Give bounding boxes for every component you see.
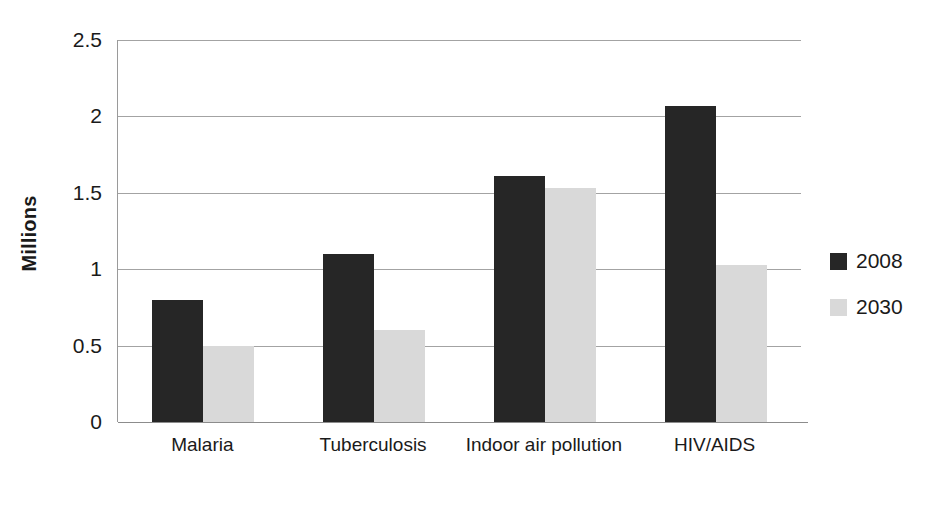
gridline — [118, 422, 808, 423]
bar-2030-malaria — [203, 346, 254, 422]
y-axis-tick-labels: 00.511.522.5 — [46, 0, 102, 522]
y-axis-tick-label: 1.5 — [46, 181, 102, 205]
bar-2030-indoor-air-pollution — [545, 188, 596, 422]
bar-2030-tuberculosis — [374, 330, 425, 422]
y-axis-tick-label: 1 — [46, 257, 102, 281]
bar-chart: Millions 00.511.522.5 MalariaTuberculosi… — [0, 0, 949, 522]
x-axis-label-hiv-aids: HIV/AIDS — [629, 432, 800, 457]
legend-label: 2008 — [856, 249, 903, 273]
y-axis-title: Millions — [18, 179, 41, 289]
y-axis-tick-label: 2 — [46, 104, 102, 128]
legend-item-2008[interactable]: 2008 — [830, 238, 940, 284]
x-axis-label-malaria: Malaria — [117, 432, 288, 457]
y-axis-tick-label: 2.5 — [46, 28, 102, 52]
bar-2008-hiv-aids — [665, 106, 716, 422]
x-axis-label-tuberculosis: Tuberculosis — [288, 432, 459, 457]
x-axis-label-indoor-air-pollution: Indoor air pollution — [459, 432, 630, 457]
bar-2030-hiv-aids — [716, 265, 767, 422]
legend-swatch-icon — [830, 253, 847, 270]
bar-2008-malaria — [152, 300, 203, 422]
y-axis-tick-label: 0.5 — [46, 334, 102, 358]
legend: 20082030 — [830, 238, 940, 330]
bar-2008-indoor-air-pollution — [494, 176, 545, 422]
legend-label: 2030 — [856, 295, 903, 319]
bar-2008-tuberculosis — [323, 254, 374, 422]
y-axis-tick-label: 0 — [46, 410, 102, 434]
plot-area — [117, 40, 801, 422]
legend-item-2030[interactable]: 2030 — [830, 284, 940, 330]
legend-swatch-icon — [830, 299, 847, 316]
gridline — [118, 40, 801, 41]
